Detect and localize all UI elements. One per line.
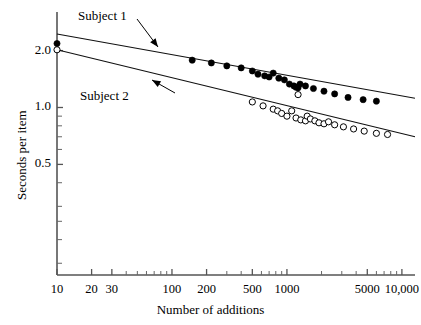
- figure: Seconds per item Number of additions 102…: [0, 0, 421, 325]
- x-axis-title: Number of additions: [0, 302, 421, 318]
- fitted-trend-lines: [57, 34, 415, 137]
- series-annotation-label: Subject 1: [78, 8, 127, 24]
- x-tick-label: 1000: [257, 282, 317, 297]
- x-tick-label: 30: [82, 282, 142, 297]
- x-tick-label: 10,000: [372, 282, 421, 297]
- series-annotation-label: Subject 2: [80, 88, 129, 104]
- y-axis-ticks: [57, 51, 63, 264]
- chart-canvas: [0, 0, 421, 325]
- x-axis-ticks: [57, 269, 402, 275]
- y-tick-label: 2.0: [1, 42, 51, 58]
- annotation-arrows: [137, 19, 175, 93]
- y-tick-label: 1.0: [1, 98, 51, 114]
- y-tick-label: 0.5: [1, 155, 51, 171]
- axis-lines: [57, 12, 415, 275]
